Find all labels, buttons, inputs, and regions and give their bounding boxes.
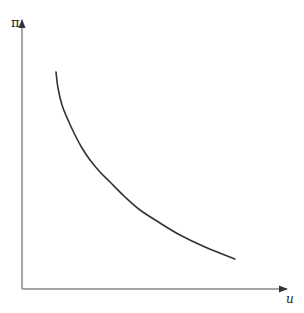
curve-line — [56, 72, 235, 259]
y-axis-label: π — [11, 15, 20, 30]
chart: π u — [0, 0, 304, 313]
x-axis-label: u — [286, 292, 294, 306]
